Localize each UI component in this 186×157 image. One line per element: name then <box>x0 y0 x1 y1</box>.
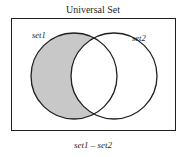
set2-label: set2 <box>132 33 146 43</box>
shaded-region-set1-minus-set2 <box>0 0 186 157</box>
venn-diagram-figure: Universal Set set1 set2 set1 – set2 <box>0 0 186 157</box>
set1-label: set1 <box>32 30 46 40</box>
figure-caption: set1 – set2 <box>74 140 112 150</box>
venn-diagram-canvas: Universal Set set1 set2 set1 – set2 <box>0 0 186 157</box>
